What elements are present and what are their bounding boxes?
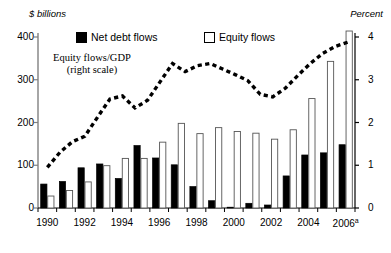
x-axis-tick-superscript: a <box>355 217 359 224</box>
x-axis-tick-label: 2006a <box>324 217 368 229</box>
chart-container: $ billions Percent Net debt flows Equity… <box>0 0 391 253</box>
x-axis-tick-labels: 199019921994199619982000200220042006a <box>0 0 391 253</box>
